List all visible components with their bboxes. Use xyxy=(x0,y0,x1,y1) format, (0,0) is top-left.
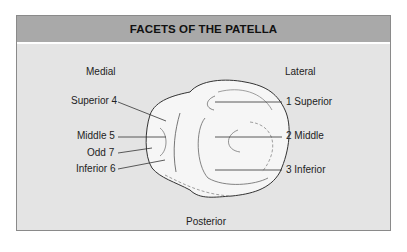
facet-superior-1: 1 Superior xyxy=(286,96,332,107)
facet-inferior-3: 3 Inferior xyxy=(286,164,325,175)
posterior-label: Posterior xyxy=(186,216,226,227)
patella-outline xyxy=(146,80,289,197)
facet-middle-2: 2 Middle xyxy=(286,130,324,141)
facet-inferior-6: Inferior 6 xyxy=(76,163,115,174)
facet-middle-5: Middle 5 xyxy=(77,130,115,141)
patella-illustration xyxy=(0,0,407,252)
medial-label: Medial xyxy=(86,66,115,77)
facet-odd-7: Odd 7 xyxy=(87,147,114,158)
lateral-label: Lateral xyxy=(285,66,316,77)
facet-superior-4: Superior 4 xyxy=(71,95,117,106)
